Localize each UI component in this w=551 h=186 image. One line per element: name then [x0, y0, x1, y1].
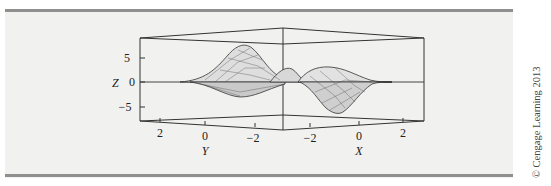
- box-top-back: [140, 28, 424, 38]
- svg-text:2: 2: [400, 126, 406, 140]
- box-top-front: [140, 38, 424, 44]
- svg-text:0: 0: [356, 129, 362, 143]
- surface-valley: [300, 82, 392, 113]
- svg-text:Y: Y: [202, 144, 210, 158]
- svg-text:0: 0: [202, 129, 208, 143]
- svg-text:−5: −5: [119, 100, 132, 114]
- surface-underside-left: [190, 82, 285, 97]
- svg-text:Z: Z: [112, 76, 119, 90]
- svg-text:0: 0: [129, 75, 135, 89]
- svg-text:X: X: [354, 144, 363, 158]
- svg-text:2: 2: [157, 126, 163, 140]
- box-bottom-front: [140, 121, 424, 130]
- surface-right-bump: [298, 67, 392, 82]
- box-bottom-back: [140, 115, 424, 121]
- surface-plot: 5 0 −5 Z 2 0 −2 Y −2 0 2 X: [0, 0, 551, 186]
- svg-text:−2: −2: [304, 131, 317, 145]
- svg-text:−2: −2: [247, 131, 260, 145]
- copyright-credit: © Cengage Learning 2013: [531, 67, 542, 179]
- svg-text:5: 5: [124, 51, 130, 65]
